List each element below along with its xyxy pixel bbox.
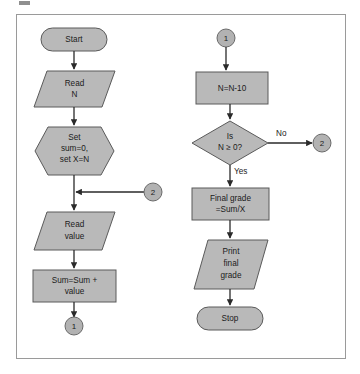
node-start-label: Start xyxy=(65,35,83,44)
node-set-vars-label-2: sum=0, xyxy=(61,144,88,153)
node-read-value-label-1: Read xyxy=(65,220,85,229)
node-final-grade-label-1: Final grade xyxy=(210,194,251,203)
branch-label-no: No xyxy=(276,129,287,138)
node-sum-accum-label-1: Sum=Sum + xyxy=(52,276,98,285)
connector-2-left-entry-label: 2 xyxy=(151,188,156,197)
connector-2-right-exit-label: 2 xyxy=(320,139,325,148)
node-print-grade-label-2: final xyxy=(223,259,238,268)
flowchart-figure: Start Read N Set sum=0, set X=N 2 Read v… xyxy=(0,0,360,374)
caption-fragment xyxy=(19,1,30,5)
node-sum-accum-label-2: value xyxy=(65,287,85,296)
flowchart-canvas: Start Read N Set sum=0, set X=N 2 Read v… xyxy=(0,0,360,374)
figure-frame xyxy=(17,15,346,359)
node-decrement-n-label: N=N-10 xyxy=(218,84,247,93)
node-read-value xyxy=(34,212,115,250)
connector-1-left-exit-label: 1 xyxy=(72,322,77,331)
node-set-vars-label-1: Set xyxy=(68,133,81,142)
connector-1-right-entry-label: 1 xyxy=(224,34,229,43)
node-stop-label: Stop xyxy=(222,314,239,323)
node-final-grade-label-2: =Sum/X xyxy=(216,205,246,214)
node-print-grade-label-3: grade xyxy=(221,271,242,280)
node-final-grade xyxy=(192,188,269,220)
node-read-n-label-1: Read xyxy=(65,79,85,88)
node-read-n xyxy=(34,71,115,107)
node-is-n-ge-0-label-1: Is xyxy=(227,132,233,141)
node-is-n-ge-0-label-2: N ≥ 0? xyxy=(218,143,243,152)
branch-label-yes: Yes xyxy=(234,167,247,176)
node-sum-accum xyxy=(33,270,116,302)
node-print-grade-label-1: Print xyxy=(223,247,241,256)
node-set-vars-label-3: set X=N xyxy=(60,155,89,164)
node-read-n-label-2: N xyxy=(72,90,78,99)
node-read-value-label-2: value xyxy=(65,232,85,241)
